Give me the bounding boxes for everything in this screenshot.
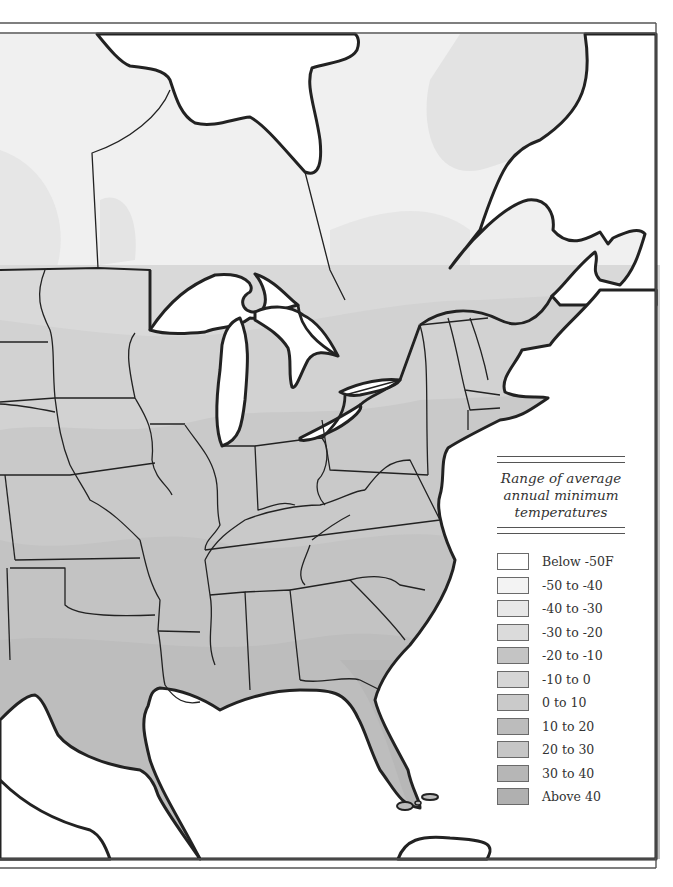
- legend-item: 20 to 30: [497, 738, 637, 762]
- legend-swatch: [497, 647, 529, 664]
- legend-rule-bottom: [497, 527, 625, 528]
- legend-label: 10 to 20: [542, 719, 594, 734]
- legend-label: 20 to 30: [542, 742, 594, 757]
- legend-swatch: [497, 718, 529, 735]
- legend-swatch: [497, 671, 529, 688]
- legend-item: 10 to 20: [497, 715, 637, 739]
- legend-item: -40 to -30: [497, 597, 637, 621]
- legend-label: 0 to 10: [542, 695, 586, 710]
- legend-swatch: [497, 694, 529, 711]
- legend-item: 30 to 40: [497, 762, 637, 786]
- legend-rule-bottom-2: [497, 533, 625, 534]
- legend-swatch: [497, 577, 529, 594]
- legend-items: Below -50F -50 to -40 -40 to -30 -30 to …: [497, 550, 637, 809]
- legend-item: -20 to -10: [497, 644, 637, 668]
- legend-title: Range of average annual minimum temperat…: [497, 463, 625, 527]
- legend-item: -30 to -20: [497, 621, 637, 645]
- legend-swatch: [497, 765, 529, 782]
- legend-title-line: temperatures: [497, 504, 625, 521]
- cuba: [398, 837, 490, 859]
- legend-item: Below -50F: [497, 550, 637, 574]
- legend-label: Above 40: [542, 789, 601, 804]
- legend-label: -40 to -30: [542, 601, 603, 616]
- legend-title-line: Range of average: [497, 470, 625, 487]
- map-legend: Range of average annual minimum temperat…: [497, 456, 625, 534]
- legend-swatch: [497, 624, 529, 641]
- legend-item: -10 to 0: [497, 668, 637, 692]
- legend-swatch: [497, 741, 529, 758]
- legend-title-line: annual minimum: [497, 487, 625, 504]
- legend-label: -20 to -10: [542, 648, 603, 663]
- legend-label: Below -50F: [542, 554, 614, 569]
- legend-item: 0 to 10: [497, 691, 637, 715]
- legend-label: 30 to 40: [542, 766, 594, 781]
- legend-rule-top: [497, 456, 625, 457]
- legend-label: -30 to -20: [542, 625, 603, 640]
- legend-swatch: [497, 788, 529, 805]
- legend-label: -50 to -40: [542, 578, 603, 593]
- legend-swatch: [497, 600, 529, 617]
- legend-item: -50 to -40: [497, 574, 637, 598]
- legend-label: -10 to 0: [542, 672, 591, 687]
- legend-item: Above 40: [497, 785, 637, 809]
- legend-swatch: [497, 553, 529, 570]
